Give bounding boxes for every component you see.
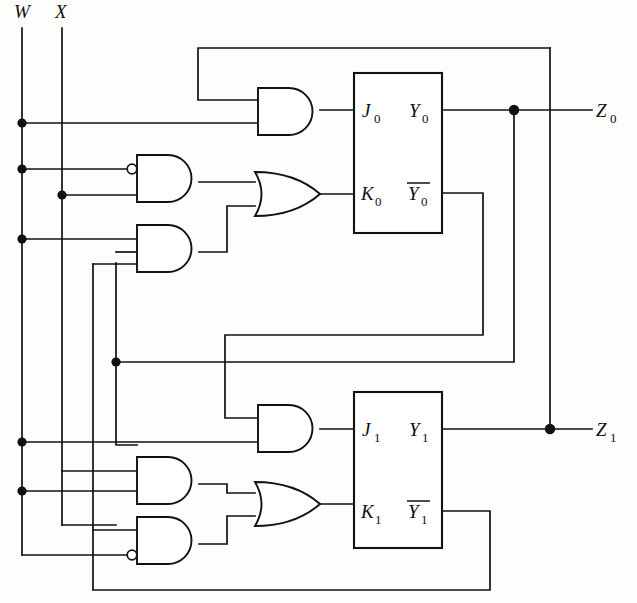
inversion-bubble-icon	[127, 164, 137, 174]
junction-dot	[57, 190, 66, 199]
pin-label-J0-sub: 0	[374, 111, 381, 126]
pin-label-Y0-sub: 0	[422, 111, 429, 126]
wire-andc-to-ork1	[199, 484, 255, 493]
junction-dot	[17, 486, 26, 495]
flipflop-box-0	[354, 73, 442, 233]
junction-dot	[17, 164, 26, 173]
wire-andb-to-ork0	[199, 206, 255, 252]
or-gate-k1	[255, 482, 320, 526]
pin-label-K0-base: K	[360, 183, 375, 204]
wire-y0-feedback-vert	[116, 263, 137, 445]
output-label-Z0-base: Z	[596, 100, 607, 121]
pin-label-K1-base: K	[360, 501, 375, 522]
junction-dot	[17, 118, 26, 127]
output-label-Z1-base: Z	[596, 419, 607, 440]
wire-andd-to-ork1	[199, 516, 255, 544]
and-gate-b	[137, 225, 191, 272]
pin-label-K1-sub: 1	[375, 512, 382, 527]
and-gate-d	[127, 517, 191, 564]
inversion-bubble-icon	[127, 550, 137, 560]
pin-label-Ybar0-sub: 0	[421, 194, 428, 209]
pin-label-Y1-sub: 1	[422, 430, 429, 445]
output-label-Z0-sub: 0	[610, 111, 617, 126]
input-label-W: W	[14, 1, 32, 22]
junction-dot	[111, 357, 120, 366]
schematic-canvas: W X Z 0 Z 1 J 0 K 0 Y 0 Y 0	[0, 0, 637, 603]
pin-label-Ybar1-sub: 1	[421, 512, 428, 527]
junction-dot	[17, 234, 26, 243]
and-gate-j0	[258, 88, 312, 135]
junction-dot	[545, 424, 555, 434]
output-label-Z1: Z 1	[596, 419, 617, 445]
junction-dot	[17, 437, 26, 446]
flipflop-box-1	[354, 392, 442, 548]
junction-dot	[509, 105, 519, 115]
pin-label-K0-sub: 0	[375, 194, 382, 209]
and-gate-j1	[258, 405, 312, 452]
pin-label-J1-sub: 1	[374, 430, 381, 445]
output-label-Z1-sub: 1	[610, 430, 617, 445]
wire-ork1-to-k1	[320, 504, 354, 511]
output-label-Z0: Z 0	[596, 100, 617, 126]
and-gate-a	[127, 155, 191, 202]
and-gate-c	[137, 457, 191, 504]
or-gate-k0	[255, 172, 320, 216]
input-label-X: X	[54, 1, 68, 22]
logic-diagram-svg: W X Z 0 Z 1 J 0 K 0 Y 0 Y 0	[0, 0, 637, 603]
